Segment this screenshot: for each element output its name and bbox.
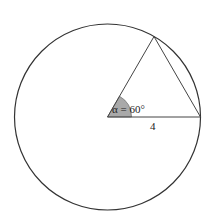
radius-label: 4 <box>150 120 156 132</box>
angle-label: α = 60° <box>112 103 145 115</box>
chord <box>154 37 201 118</box>
circle-diagram: α = 60° 4 <box>0 0 213 222</box>
